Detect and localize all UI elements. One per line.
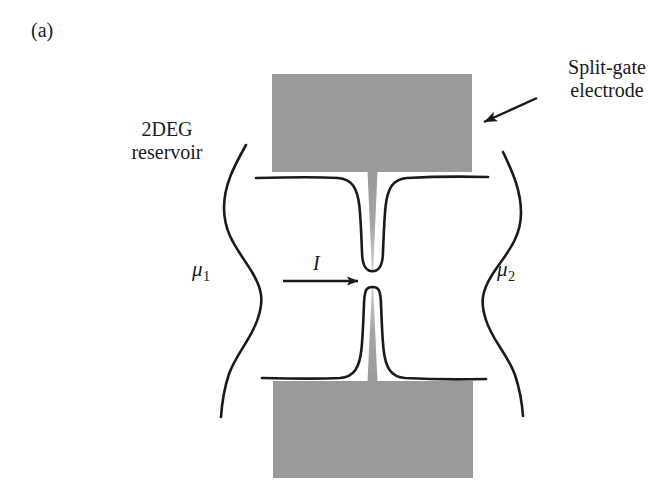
split-gate-pointer-arrow (484, 98, 537, 122)
reservoir-label-line1: 2DEG (141, 118, 192, 140)
reservoir-boundary-right (483, 152, 523, 416)
mu-1-symbol: μ (192, 257, 203, 281)
reservoir-label: 2DEGreservoir (103, 118, 231, 164)
mu-1-label: μ1 (192, 258, 210, 284)
gate-bottom (273, 288, 473, 478)
reservoir-boundary-left (221, 145, 261, 417)
mu-2-subscript: 2 (508, 268, 516, 284)
reservoir-label-line2: reservoir (131, 141, 202, 163)
panel-label: (a) (31, 19, 53, 42)
mu-2-label: μ2 (497, 258, 515, 284)
gate-top (272, 74, 472, 270)
split-gate-label-line1: Split-gate (568, 56, 646, 78)
mu-1-subscript: 1 (203, 268, 211, 284)
mu-2-symbol: μ (497, 257, 508, 281)
split-gate-label-line2: electrode (570, 79, 643, 101)
current-label: I (313, 252, 320, 275)
split-gate-label: Split-gateelectrode (548, 56, 666, 102)
figure-panel-a: (a) 2DEGreservoir Split-gateelectrode μ1… (0, 0, 667, 500)
